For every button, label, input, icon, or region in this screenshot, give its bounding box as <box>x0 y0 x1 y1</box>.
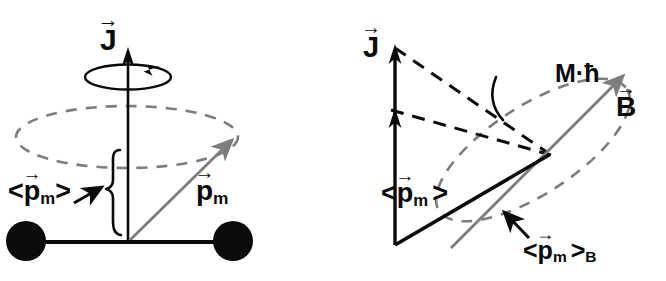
bracket-close: > <box>55 176 71 206</box>
bracket-open: < <box>381 178 397 208</box>
label-field-subscript: B <box>585 248 596 265</box>
label-quantized-projection: M·ħ <box>555 61 599 86</box>
mean-value-brace <box>106 150 121 235</box>
physics-figure: → J < → pm> → pm <box>0 0 666 281</box>
label-pm-vector: → pm <box>196 177 229 207</box>
label-J-vector: → J <box>100 25 117 55</box>
label-mean-pm: < → pm> <box>381 180 448 209</box>
vector-accent-icon: → <box>98 9 119 30</box>
label-pm-subscript: m <box>40 189 55 208</box>
vector-accent-icon: → <box>195 162 215 182</box>
bracket-open: < <box>8 176 24 206</box>
label-mean-pm: < → pm> <box>8 178 71 207</box>
label-pm-subscript: m <box>553 248 567 265</box>
vector-accent-icon: → <box>396 166 415 185</box>
label-pm-subscript: m <box>213 188 228 208</box>
panel-projection-of-pm-onto-B: → J M·ħ → B < → pm> < → pm>B <box>333 0 666 281</box>
atom-sphere-left <box>6 221 46 261</box>
projection-angle-arc <box>492 77 503 120</box>
vector-accent-icon: → <box>616 78 636 98</box>
label-J-vector: → J <box>363 33 379 62</box>
atom-sphere-right <box>213 221 253 261</box>
cone-edge-lower <box>391 110 551 155</box>
bracket-close: > <box>432 178 448 208</box>
pointer-arrow <box>74 187 102 203</box>
right-panel-graphics <box>333 0 666 281</box>
vector-accent-icon: → <box>361 17 381 37</box>
vector-accent-icon: → <box>536 225 554 243</box>
label-pm-subscript: m <box>413 191 428 210</box>
bracket-close: > <box>571 236 586 264</box>
label-B-vector: → B <box>616 93 636 121</box>
pointer-arrow <box>504 212 529 238</box>
label-projected-pm: < → pm>B <box>523 238 597 265</box>
cone-edge-upper <box>395 48 548 153</box>
left-panel-graphics <box>0 0 333 281</box>
panel-precession-of-pm-about-J: → J < → pm> → pm <box>0 0 333 281</box>
vector-accent-icon: → <box>23 164 42 183</box>
